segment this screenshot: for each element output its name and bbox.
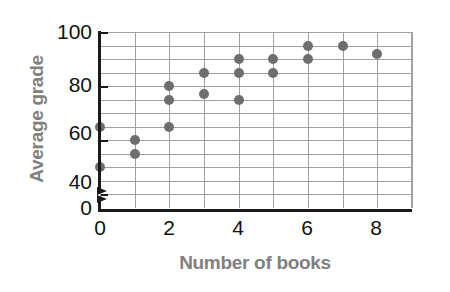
x-tick-label-2: 2 bbox=[149, 216, 189, 240]
gridline-v-9 bbox=[412, 32, 413, 208]
data-point bbox=[199, 89, 209, 99]
y-tick-label-60: 60 bbox=[50, 121, 92, 145]
x-tick-label-6: 6 bbox=[287, 216, 327, 240]
data-point bbox=[164, 95, 174, 105]
x-axis-line bbox=[98, 209, 412, 212]
data-point bbox=[303, 54, 313, 64]
data-point bbox=[234, 54, 244, 64]
y-tick-mark-60 bbox=[101, 140, 108, 142]
gridline-h-85 bbox=[100, 73, 412, 74]
y-tick-mark-100 bbox=[101, 32, 108, 34]
gridline-h-95 bbox=[100, 46, 412, 47]
data-point bbox=[130, 149, 140, 159]
y-tick-mark-40 bbox=[101, 194, 108, 196]
gridline-h-65 bbox=[100, 127, 412, 128]
y-tick-mark-80 bbox=[101, 86, 108, 88]
gridline-h-50 bbox=[100, 167, 412, 168]
gridline-v-3 bbox=[204, 32, 205, 208]
data-point bbox=[130, 135, 140, 145]
scatter-plot-figure: Average grade Number of books 100 80 60 … bbox=[0, 0, 450, 292]
gridline-h-100 bbox=[100, 32, 412, 33]
data-point bbox=[268, 54, 278, 64]
plot-area bbox=[100, 32, 412, 208]
x-tick-label-4: 4 bbox=[218, 216, 258, 240]
gridline-h-55 bbox=[100, 154, 412, 155]
gridline-h-70 bbox=[100, 113, 412, 114]
x-tick-label-8: 8 bbox=[356, 216, 396, 240]
data-point bbox=[234, 95, 244, 105]
gridline-h-60 bbox=[100, 140, 412, 141]
gridline-h-75 bbox=[100, 100, 412, 101]
x-tick-label-0: 0 bbox=[80, 216, 120, 240]
y-axis-title: Average grade bbox=[26, 24, 48, 214]
y-tick-label-80: 80 bbox=[50, 73, 92, 97]
gridline-h-90 bbox=[100, 59, 412, 60]
data-point bbox=[234, 68, 244, 78]
gridline-v-7 bbox=[343, 32, 344, 208]
gridline-h-40 bbox=[100, 194, 412, 195]
data-point bbox=[303, 41, 313, 51]
data-point bbox=[268, 68, 278, 78]
gridline-v-2 bbox=[169, 32, 170, 208]
gridline-h-80 bbox=[100, 86, 412, 87]
gridline-v-1 bbox=[135, 32, 136, 208]
data-point bbox=[372, 49, 382, 59]
data-point bbox=[164, 122, 174, 132]
x-axis-title: Number of books bbox=[100, 252, 410, 274]
data-point bbox=[199, 68, 209, 78]
y-axis-line bbox=[98, 31, 101, 191]
y-tick-label-100: 100 bbox=[50, 20, 92, 44]
data-point bbox=[164, 81, 174, 91]
data-point bbox=[338, 41, 348, 51]
gridline-h-45 bbox=[100, 181, 412, 182]
y-tick-label-40: 40 bbox=[50, 170, 92, 194]
